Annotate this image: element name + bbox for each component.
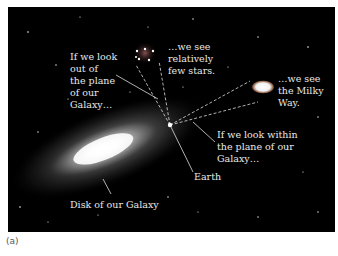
earth-marker-icon <box>168 123 172 127</box>
galaxy-diagram: If we look out of the plane of our Galax… <box>8 7 335 232</box>
label-look-out: If we look out of the plane of our Galax… <box>70 51 117 111</box>
label-few-stars: …we see relatively few stars. <box>168 41 215 77</box>
label-milky-way: …we see the Milky Way. <box>278 73 324 109</box>
label-disk: Disk of our Galaxy <box>70 199 159 211</box>
milky-way-icon <box>251 80 275 94</box>
star-cluster-icon <box>133 41 157 65</box>
label-look-within: If we look within the plane of our Galax… <box>217 129 298 165</box>
figure-caption: (a) <box>6 236 19 246</box>
label-earth: Earth <box>194 171 221 183</box>
